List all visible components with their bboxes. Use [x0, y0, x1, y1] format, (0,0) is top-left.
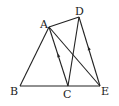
- label-a: A: [39, 18, 49, 31]
- arrow-icon: [88, 47, 91, 51]
- geometry-figure: A D B C E: [0, 0, 119, 106]
- edge-ae: [49, 27, 100, 86]
- label-c: C: [63, 88, 71, 101]
- label-b: B: [10, 85, 18, 98]
- edge-de: [79, 17, 100, 86]
- edge-ad: [49, 17, 79, 27]
- edges: [20, 17, 100, 86]
- label-e: E: [101, 85, 109, 98]
- arrow-icon: [57, 54, 60, 58]
- label-d: D: [75, 5, 84, 18]
- edge-ab: [20, 27, 49, 86]
